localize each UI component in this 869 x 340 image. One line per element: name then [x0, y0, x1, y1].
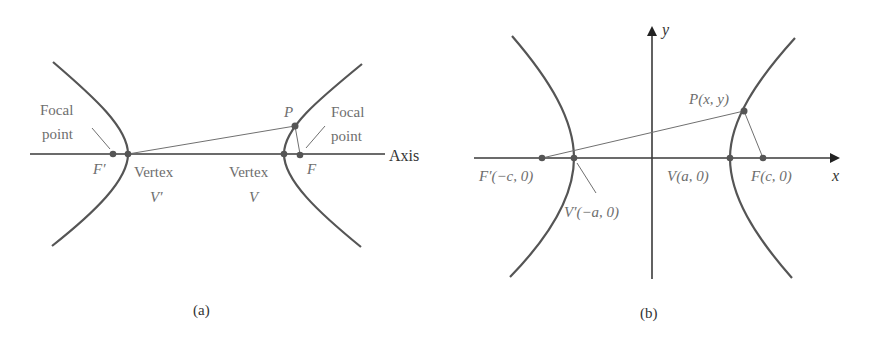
- vertex-left-label-1: Vertex: [134, 164, 174, 180]
- vertex-v-prime-dot-b: [571, 155, 578, 162]
- vertex-v-label-b: V(a, 0): [667, 168, 709, 185]
- line-pf-prime-b: [542, 111, 744, 158]
- caption-a: (a): [193, 302, 210, 319]
- focal-left-label-1: Focal: [40, 102, 73, 118]
- vertex-v-prime-label-b: V′(−a, 0): [564, 204, 619, 221]
- focal-left-label-2: point: [42, 126, 74, 142]
- vertex-v-dot-b: [727, 155, 734, 162]
- vertex-left-label-2: V′: [150, 189, 163, 205]
- focus-f-label-b: F(c, 0): [750, 168, 792, 185]
- point-p-dot: [292, 123, 299, 130]
- focus-f-prime-label-b: F′(−c, 0): [478, 168, 533, 185]
- line-pf-prime: [128, 126, 295, 154]
- caption-b: (b): [640, 305, 658, 322]
- hyperbola-figure: Focal point Focal point P F′ F Vertex V′…: [0, 0, 869, 340]
- axis-label: Axis: [389, 147, 419, 164]
- line-pf-b: [744, 111, 763, 158]
- point-p-label: P: [283, 104, 293, 120]
- leader-v-prime: [577, 163, 596, 193]
- leader-focal-left: [92, 128, 110, 149]
- point-p-label-b: P(x, y): [688, 91, 729, 108]
- focal-right-label-2: point: [331, 128, 363, 144]
- focus-f-prime-label: F′: [92, 161, 106, 177]
- y-axis-label: y: [660, 21, 670, 39]
- vertex-right-label-2: V: [249, 189, 260, 205]
- focus-f-dot-b: [760, 155, 767, 162]
- x-axis-label: x: [831, 167, 839, 184]
- panel-b: P(x, y) F′(−c, 0) V′(−a, 0) V(a, 0) F(c,…: [474, 21, 839, 322]
- point-p-dot-b: [741, 108, 748, 115]
- focus-f-dot: [297, 152, 304, 159]
- line-pf: [295, 126, 300, 154]
- vertex-v-prime-dot: [125, 151, 132, 158]
- vertex-right-label-1: Vertex: [229, 164, 269, 180]
- vertex-v-dot: [281, 151, 288, 158]
- focus-f-prime-dot-b: [539, 155, 546, 162]
- panel-a: Focal point Focal point P F′ F Vertex V′…: [30, 62, 419, 319]
- focus-f-prime-dot: [110, 151, 117, 158]
- leader-focal-right: [306, 126, 325, 148]
- right-branch: [284, 64, 362, 247]
- focal-right-label-1: Focal: [331, 104, 364, 120]
- focus-f-label: F: [306, 161, 317, 177]
